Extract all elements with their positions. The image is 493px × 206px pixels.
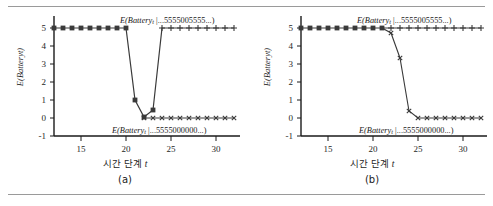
- panel-caption-b: (b): [249, 174, 493, 185]
- x-axis-title-b: 시간 단계 t: [249, 156, 493, 170]
- x-tick-label-30: 30: [459, 144, 469, 154]
- chart-panel-b: 5 4 3 2 1 0 -1 15 20 25: [249, 10, 493, 192]
- series-lower-b: [382, 28, 483, 120]
- y-tick-label-1: 1: [42, 95, 47, 105]
- series-label-lower-b: E(Batteryt |...5555000000...): [359, 126, 453, 135]
- y-axis-title-a: E(Batteryt): [15, 27, 25, 107]
- series-upper-b-plus-markers: [388, 25, 484, 31]
- y-tick-label-neg1: -1: [286, 131, 294, 141]
- y-tick-label-4: 4: [42, 41, 47, 51]
- plot-svg-a: 5 4 3 2 1 0 -1 15 20 25: [2, 10, 248, 160]
- top-divider-rule: [8, 6, 485, 7]
- series-label-upper-a: E(Batteryt |...5555005555...): [120, 16, 214, 25]
- series-label-upper-b: E(Batteryt |...5555005555...): [357, 16, 451, 25]
- y-tick-label-2: 2: [289, 77, 294, 87]
- panel-caption-a: (a): [2, 174, 248, 185]
- y-tick-label-0: 0: [42, 113, 47, 123]
- y-tick-label-5: 5: [289, 23, 294, 33]
- x-tick-label-25: 25: [414, 144, 424, 154]
- x-ticks-a: 15 20 25 30: [77, 136, 222, 154]
- series-upper-a: [52, 25, 237, 119]
- series-lower-b-line: [382, 28, 481, 118]
- series-upper-a-line: [54, 28, 234, 117]
- y-tick-label-5: 5: [42, 23, 47, 33]
- x-tick-label-15: 15: [77, 144, 87, 154]
- series-upper-a-plus-markers: [159, 25, 237, 31]
- y-tick-label-4: 4: [289, 41, 294, 51]
- y-ticks-b: 5 4 3 2 1 0 -1: [286, 23, 302, 141]
- y-tick-label-3: 3: [42, 59, 47, 69]
- chart-panel-a: 5 4 3 2 1 0 -1 15 20 25: [2, 10, 248, 192]
- y-tick-label-neg1: -1: [39, 131, 47, 141]
- x-tick-label-30: 30: [212, 144, 222, 154]
- y-tick-label-2: 2: [42, 77, 47, 87]
- x-tick-label-15: 15: [324, 144, 334, 154]
- x-axis-title-a: 시간 단계 t: [2, 156, 248, 170]
- x-ticks-b: 15 20 25 30: [324, 136, 469, 154]
- x-tick-label-25: 25: [167, 144, 177, 154]
- y-tick-label-1: 1: [289, 95, 294, 105]
- series-upper-a-square-markers: [52, 26, 156, 120]
- x-tick-label-20: 20: [369, 144, 379, 154]
- y-tick-label-3: 3: [289, 59, 294, 69]
- bottom-divider-rule: [8, 194, 485, 195]
- plot-svg-b: 5 4 3 2 1 0 -1 15 20 25: [249, 10, 493, 160]
- series-upper-b: [299, 25, 484, 31]
- y-axis-title-b: E(Batteryt): [262, 27, 272, 107]
- series-label-lower-a: E(Batteryt |...5555000000...): [112, 126, 206, 135]
- y-tick-label-0: 0: [289, 113, 294, 123]
- y-ticks-a: 5 4 3 2 1 0 -1: [39, 23, 55, 141]
- x-tick-label-20: 20: [122, 144, 132, 154]
- series-lower-a: [142, 116, 236, 120]
- figure-container: 5 4 3 2 1 0 -1 15 20 25: [0, 0, 493, 206]
